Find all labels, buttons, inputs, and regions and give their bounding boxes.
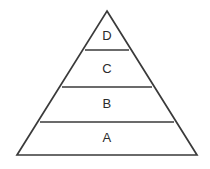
pyramid-diagram: D C B A	[0, 0, 210, 169]
pyramid-svg-canvas: D C B A	[0, 0, 210, 169]
tier-label-c: C	[102, 61, 112, 76]
tier-label-a: A	[103, 130, 112, 145]
tier-label-b: B	[103, 96, 112, 111]
tier-label-d: D	[102, 28, 112, 43]
